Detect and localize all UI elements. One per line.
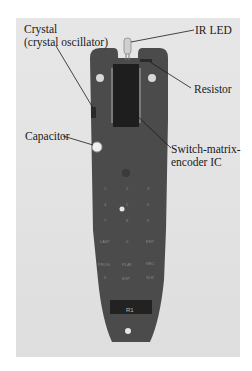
- svg-text:II: II: [104, 275, 106, 280]
- circuit-board-illustration: 123 456 789 LAST0ENT PROGPLAYREC IIEXPSL…: [0, 0, 252, 371]
- mount-hole-right: [148, 74, 156, 82]
- svg-text:LAST: LAST: [100, 239, 111, 244]
- capacitor: [92, 142, 102, 152]
- resistor: [140, 59, 152, 62]
- ic-label-line1: Switch-matrix-: [171, 143, 241, 156]
- ir-led-leader: [131, 30, 194, 42]
- ic-label-line2: encoder IC: [171, 156, 222, 169]
- resistor-label: Resistor: [194, 83, 232, 96]
- switch-matrix-encoder-ic: [113, 64, 139, 127]
- svg-text:ENT: ENT: [146, 239, 155, 244]
- crystal-label-line2: (crystal oscillator): [24, 36, 108, 49]
- capacitor-label: Capacitor: [25, 130, 70, 143]
- svg-text:R1: R1: [126, 307, 134, 313]
- crystal-leader: [56, 46, 93, 108]
- ir-led-label: IR LED: [195, 24, 232, 37]
- crystal-label-line1: Crystal: [24, 23, 57, 36]
- svg-text:EXP: EXP: [122, 276, 130, 281]
- svg-text:PLAY: PLAY: [122, 262, 132, 267]
- ir-led: [124, 38, 131, 54]
- svg-text:PROG: PROG: [98, 262, 110, 267]
- mount-hole-left: [96, 74, 104, 82]
- svg-text:REC: REC: [146, 261, 155, 266]
- svg-text:SLR: SLR: [146, 275, 154, 280]
- crystal: [91, 107, 96, 118]
